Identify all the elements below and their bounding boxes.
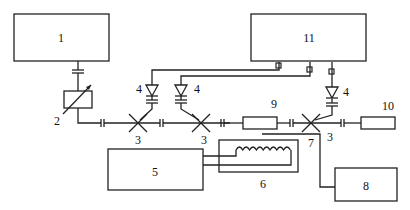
block-9-label: 9	[271, 97, 277, 111]
probe-label: 7	[308, 136, 314, 150]
block-5: 5	[108, 149, 203, 190]
connector-icons	[276, 63, 334, 74]
detector-b-label: 4	[194, 82, 200, 96]
detector-a: 4	[136, 62, 279, 120]
schematic-diagram: 1 11 2	[0, 0, 410, 210]
main-line	[78, 108, 361, 128]
block-10-label: 10	[382, 99, 394, 113]
diode-icon	[146, 85, 158, 96]
block-6: 6	[203, 140, 298, 191]
coupler-b-label: 3	[201, 133, 207, 147]
block-8: 8	[335, 168, 397, 201]
block-11: 11	[251, 14, 366, 61]
detector-c: 4	[315, 62, 349, 120]
block-6-label: 6	[260, 177, 266, 191]
directional-coupler-c: 3	[302, 114, 333, 144]
block-8-label: 8	[363, 179, 369, 193]
directional-coupler-b: 3	[192, 114, 210, 147]
attenuator-label: 2	[54, 114, 60, 128]
block-1-label: 1	[58, 31, 64, 45]
block-9: 9	[243, 97, 277, 129]
coupler-c-label: 3	[327, 130, 333, 144]
block-10: 10	[361, 99, 395, 129]
capacitor-icon	[72, 61, 84, 91]
coupler-a-label: 3	[135, 133, 141, 147]
block-1: 1	[14, 14, 109, 61]
directional-coupler-a: 3	[129, 114, 147, 147]
detector-b: 4	[175, 62, 310, 120]
detector-c-label: 4	[343, 85, 349, 99]
block-5-label: 5	[152, 165, 158, 179]
diode-icon	[175, 85, 187, 96]
diode-icon	[326, 87, 338, 98]
variable-attenuator-icon: 2	[54, 85, 92, 128]
block-11-label: 11	[303, 31, 315, 45]
detector-a-label: 4	[136, 82, 142, 96]
